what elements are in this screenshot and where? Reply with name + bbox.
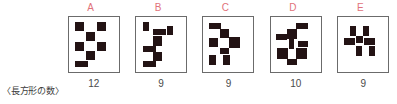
block — [209, 55, 216, 65]
block — [289, 39, 294, 49]
panel-b-grid — [141, 22, 181, 67]
block — [86, 32, 95, 41]
panel-c-box — [202, 16, 254, 73]
block — [223, 55, 230, 65]
panel-a-count: 12 — [60, 78, 127, 89]
block — [86, 51, 95, 60]
block — [220, 48, 229, 54]
panel-a-box — [68, 16, 120, 73]
block — [153, 52, 162, 61]
panel-d-label: D — [259, 0, 326, 16]
panel-d-box — [270, 16, 322, 73]
block — [296, 23, 308, 29]
panel-c[interactable]: C 9 — [195, 0, 262, 104]
panel-e[interactable]: E 9 — [330, 0, 397, 104]
block — [143, 61, 156, 67]
panel-e-grid — [343, 22, 383, 67]
block — [298, 41, 308, 47]
panel-c-label: C — [192, 0, 259, 16]
block — [75, 61, 88, 67]
block — [277, 48, 288, 59]
panel-e-box — [337, 16, 389, 73]
panel-b-box — [135, 16, 187, 73]
panel-row: A 12 B 9 C 9 D 10 — [60, 0, 397, 104]
panel-a-label: A — [57, 0, 124, 16]
block — [143, 22, 149, 31]
block — [75, 22, 84, 31]
block — [209, 38, 218, 47]
block — [153, 29, 166, 35]
block — [220, 29, 229, 38]
block — [363, 26, 369, 36]
block — [75, 42, 84, 51]
block — [356, 36, 363, 43]
panel-c-count: 9 — [195, 78, 262, 89]
panel-e-label: E — [327, 0, 394, 16]
row-caption-rectangle-count: 〈長方形の数〉 — [2, 84, 60, 97]
panel-a[interactable]: A 12 — [60, 0, 127, 104]
block — [167, 26, 173, 35]
panel-e-count: 9 — [330, 78, 397, 89]
panel-b-count: 9 — [127, 78, 194, 89]
panel-d-count: 10 — [262, 78, 329, 89]
panel-a-grid — [74, 22, 114, 67]
panel-d[interactable]: D 10 — [262, 0, 329, 104]
block — [350, 26, 356, 36]
panel-b[interactable]: B 9 — [127, 0, 194, 104]
panel-b-label: B — [124, 0, 191, 16]
block — [229, 37, 240, 48]
block — [97, 42, 106, 51]
block — [287, 29, 297, 39]
block — [153, 36, 162, 46]
block — [276, 34, 287, 40]
block — [369, 46, 375, 56]
block — [97, 22, 106, 31]
block — [287, 59, 297, 65]
block — [344, 38, 355, 45]
block — [364, 38, 375, 45]
block — [296, 48, 307, 59]
panel-c-grid — [208, 22, 248, 67]
block — [356, 46, 362, 56]
rectangle-count-figure: 〈長方形の数〉 A 12 B 9 C 9 D — [0, 0, 397, 104]
panel-d-grid — [276, 22, 316, 67]
